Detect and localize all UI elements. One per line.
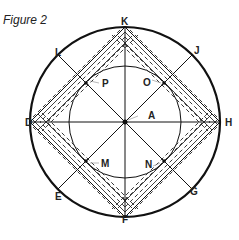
label-G: G [190,186,198,197]
point-O [162,81,166,85]
label-O: O [143,77,151,88]
label-H: H [225,117,232,128]
label-P: P [102,78,109,89]
label-K: K [121,16,129,27]
center-point [123,120,128,125]
label-F: F [122,214,128,225]
label-D: D [25,117,32,128]
label-M: M [101,158,109,169]
point-M [84,159,88,163]
geometry-diagram: K J H G F E D L P O M N A [0,0,239,240]
label-L: L [55,47,61,58]
point-P [84,81,88,85]
label-J: J [194,45,200,56]
label-E: E [55,191,62,202]
point-N [162,159,166,163]
label-A: A [148,110,155,121]
label-N: N [145,159,152,170]
